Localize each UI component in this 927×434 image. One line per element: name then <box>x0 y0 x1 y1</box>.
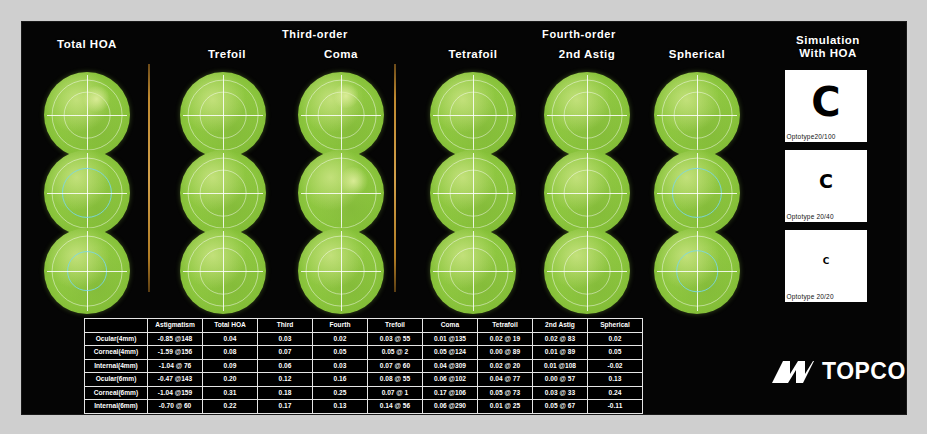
band-header-third-order: Third-order <box>190 28 440 40</box>
wavefront-map-coma-internal[interactable] <box>298 228 384 314</box>
table-cell: 0.03 <box>313 359 368 373</box>
map-ring-outer <box>188 158 259 229</box>
table-cell: -0.11 <box>588 400 643 414</box>
table-row: Internal(4mm)-1.04 @ 760.090.060.030.07 … <box>85 359 643 373</box>
map-ring-outer <box>52 236 123 307</box>
map-ring-outer <box>662 236 733 307</box>
table-row: Corneal(4mm)-1.59 @1560.080.070.050.05 @… <box>85 346 643 360</box>
table-cell: 0.06 <box>258 359 313 373</box>
table-cell: 0.02 @ 20 <box>478 359 533 373</box>
wavefront-map-total-hoa-ocular[interactable] <box>44 72 130 158</box>
wavefront-map-trefoil-internal[interactable] <box>180 228 266 314</box>
table-cell: 0.07 <box>258 346 313 360</box>
map-contour-cyan <box>62 168 112 218</box>
table-cell: 0.24 <box>588 386 643 400</box>
table-cell: 0.09 <box>203 359 258 373</box>
table-cell: 0.08 <box>203 346 258 360</box>
table-cell: 0.03 <box>258 332 313 346</box>
wavefront-map-tetrafoil-corneal[interactable] <box>430 150 516 236</box>
table-row-label: Corneal(6mm) <box>85 386 148 400</box>
map-ring-outer <box>306 236 377 307</box>
wavefront-map-trefoil-corneal[interactable] <box>180 150 266 236</box>
table-row-label: Internal(6mm) <box>85 400 148 414</box>
table-row: Corneal(6mm)-1.04 @1590.310.180.250.07 @… <box>85 386 643 400</box>
optotype-card-20-40[interactable]: C Optotype 20/40 <box>785 150 867 222</box>
landolt-c-icon: C <box>785 70 867 133</box>
table-cell: 0.05 @124 <box>423 346 478 360</box>
wavefront-map-spherical-corneal[interactable] <box>654 150 740 236</box>
table-cell: 0.00 @ 57 <box>533 373 588 387</box>
wavefront-map-trefoil-ocular[interactable] <box>180 72 266 158</box>
topcon-logo: TOPCON <box>770 358 906 385</box>
optotype-card-20-20[interactable]: C Optotype 20/20 <box>785 230 867 302</box>
table-cell: 0.25 <box>313 386 368 400</box>
topcon-logo-mark <box>770 359 816 385</box>
table-cell: 0.22 <box>203 400 258 414</box>
table-cell: -0.85 @148 <box>148 332 203 346</box>
table-cell: 0.14 @ 56 <box>368 400 423 414</box>
table-cell: 0.17 <box>258 400 313 414</box>
table-cell: 0.04 @ 77 <box>478 373 533 387</box>
table-column-header: 2nd Astig <box>533 319 588 333</box>
table-cell: 0.05 <box>313 346 368 360</box>
table-cell: -1.04 @ 76 <box>148 359 203 373</box>
hoa-report-panel: Third-order Fourth-order Total HOA Trefo… <box>22 22 906 414</box>
map-hotspot <box>82 86 111 112</box>
screenshot-root: Third-order Fourth-order Total HOA Trefo… <box>0 0 927 434</box>
wavefront-map-spherical-internal[interactable] <box>654 228 740 314</box>
table-cell: 0.05 <box>588 346 643 360</box>
table-cell: 0.20 <box>203 373 258 387</box>
table-row-label: Ocular(4mm) <box>85 332 148 346</box>
table-cell: 0.05 @ 67 <box>533 400 588 414</box>
table-row: Internal(6mm)-0.70 @ 600.220.170.130.14 … <box>85 400 643 414</box>
table-cell: 0.31 <box>203 386 258 400</box>
wavefront-map-tetrafoil-ocular[interactable] <box>430 72 516 158</box>
map-contour-cyan <box>676 250 718 292</box>
table-column-header: Total HOA <box>203 319 258 333</box>
landolt-c-icon: C <box>785 230 867 293</box>
table-cell: -0.70 @ 60 <box>148 400 203 414</box>
table-cell: 0.02 @ 19 <box>478 332 533 346</box>
map-hotspot <box>332 84 360 108</box>
optotype-card-20-100[interactable]: C Optotype20/100 <box>785 70 867 142</box>
table-cell: 0.17 @106 <box>423 386 478 400</box>
map-ring-outer <box>188 236 259 307</box>
wavefront-map-total-hoa-corneal[interactable] <box>44 150 130 236</box>
wavefront-map-tetrafoil-internal[interactable] <box>430 228 516 314</box>
map-ring-outer <box>306 158 377 229</box>
wavefront-map-2nd-astig-ocular[interactable] <box>544 72 630 158</box>
column-label-2nd-astig: 2nd Astig <box>530 48 644 60</box>
table-cell: 0.03 @ 33 <box>533 386 588 400</box>
table-cell: 0.02 <box>313 332 368 346</box>
wavefront-map-2nd-astig-corneal[interactable] <box>544 150 630 236</box>
map-ring-outer <box>552 236 623 307</box>
wavefront-map-2nd-astig-internal[interactable] <box>544 228 630 314</box>
column-separator-right <box>394 64 396 292</box>
table-row-label: Ocular(6mm) <box>85 373 148 387</box>
wavefront-map-coma-ocular[interactable] <box>298 72 384 158</box>
table-cell: -0.47 @143 <box>148 373 203 387</box>
map-ring-outer <box>438 236 509 307</box>
table-column-header: Coma <box>423 319 478 333</box>
table-column-header: Spherical <box>588 319 643 333</box>
wavefront-map-coma-corneal[interactable] <box>298 150 384 236</box>
column-label-tetrafoil: Tetrafoil <box>416 48 530 60</box>
band-header-fourth-order: Fourth-order <box>454 28 704 40</box>
table-column-header: Third <box>258 319 313 333</box>
column-separator-left <box>148 64 150 292</box>
table-cell: -0.02 <box>588 359 643 373</box>
table-cell: 0.01 @ 25 <box>478 400 533 414</box>
table-cell: 0.18 <box>258 386 313 400</box>
optotype-caption: Optotype 20/40 <box>784 213 869 222</box>
wavefront-map-spherical-ocular[interactable] <box>654 72 740 158</box>
table-column-header: Tetrafoil <box>478 319 533 333</box>
table-cell: 0.04 <box>203 332 258 346</box>
map-ring-outer <box>188 80 259 151</box>
map-hotspot <box>338 167 369 195</box>
table-cell: 0.07 @ 1 <box>368 386 423 400</box>
table-cell: 0.01 @ 89 <box>533 346 588 360</box>
table-cell: 0.01 @108 <box>533 359 588 373</box>
table-cell: 0.07 @ 60 <box>368 359 423 373</box>
wavefront-map-total-hoa-internal[interactable] <box>44 228 130 314</box>
table-cell: -1.04 @159 <box>148 386 203 400</box>
